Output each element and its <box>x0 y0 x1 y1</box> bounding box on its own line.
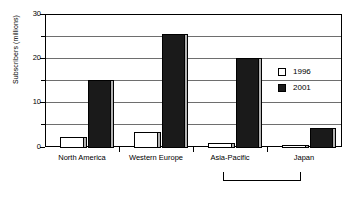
white-square-swatch-icon <box>278 68 286 76</box>
x-axis-tick-2 <box>193 147 194 152</box>
x-axis-label-north-america: North America <box>45 153 119 162</box>
bar-chart: Subscribers (millions) 30 20 10 0 <box>0 0 357 198</box>
legend-item-2001: 2001 <box>278 84 311 92</box>
y-axis-label-20: 20 <box>15 54 41 62</box>
legend-label-1996: 1996 <box>293 68 311 76</box>
x-axis-tick-3 <box>267 147 268 152</box>
legend-label-2001: 2001 <box>293 84 311 92</box>
y-axis-label-30: 30 <box>15 10 41 18</box>
x-axis-label-japan: Japan <box>267 153 341 162</box>
y-axis-label-10: 10 <box>15 98 41 106</box>
bar-north-america-1996 <box>60 137 84 148</box>
black-square-swatch-icon <box>278 84 286 92</box>
gridline-25 <box>46 36 341 37</box>
y-axis-label-0: 0 <box>15 143 41 151</box>
y-axis-tick-0 <box>40 147 45 148</box>
x-axis-label-asia-pacific: Asia-Pacific <box>193 153 267 162</box>
bar-asia-pacific-1996 <box>208 143 232 148</box>
bar-western-europe-1996 <box>134 132 158 148</box>
legend-item-1996: 1996 <box>278 68 311 76</box>
bar-japan-2001 <box>310 128 333 148</box>
gridline-20 <box>46 58 341 59</box>
x-axis-tick-1 <box>119 147 120 152</box>
category-group-bracket <box>223 172 301 181</box>
bar-north-america-2001 <box>88 80 111 148</box>
bar-asia-pacific-2001 <box>236 58 259 148</box>
x-axis-label-western-europe: Western Europe <box>119 153 193 162</box>
bar-western-europe-2001 <box>162 34 185 148</box>
bar-japan-1996 <box>282 145 306 148</box>
legend: 1996 2001 <box>278 68 311 92</box>
